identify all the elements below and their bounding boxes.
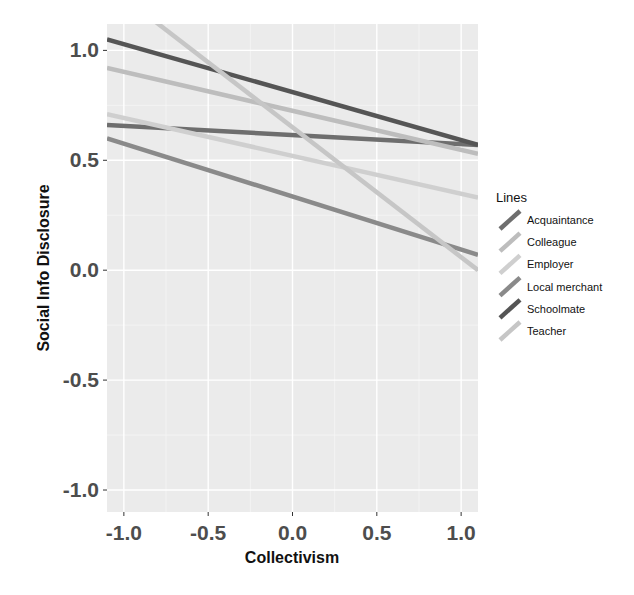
legend-item: Acquaintance <box>500 211 594 229</box>
y-tick-label: 0.0 <box>70 258 99 281</box>
x-tick-label: 1.0 <box>447 521 476 544</box>
legend-label: Local merchant <box>527 281 602 293</box>
legend: Lines AcquaintanceColleagueEmployerLocal… <box>496 190 602 340</box>
y-tick-label: -1.0 <box>63 478 99 501</box>
legend-label: Schoolmate <box>527 303 585 315</box>
legend-key-icon <box>500 322 520 340</box>
chart: 1.00.50.0-0.5-1.0 -1.0-0.50.00.51.0 Coll… <box>0 0 634 595</box>
legend-key-icon <box>500 300 520 318</box>
y-tick-label: 0.5 <box>70 148 100 171</box>
x-axis: -1.0-0.50.00.51.0 <box>106 512 476 544</box>
x-tick-label: -1.0 <box>106 521 142 544</box>
y-tick-label: 1.0 <box>70 38 99 61</box>
legend-key-icon <box>500 211 520 229</box>
legend-title: Lines <box>496 190 528 205</box>
legend-item: Colleague <box>500 233 577 251</box>
legend-label: Teacher <box>527 325 566 337</box>
legend-label: Acquaintance <box>527 214 594 226</box>
x-axis-title: Collectivism <box>245 549 339 566</box>
legend-item: Local merchant <box>500 278 602 296</box>
x-tick-label: 0.5 <box>362 521 392 544</box>
y-tick-label: -0.5 <box>63 368 100 391</box>
legend-item: Employer <box>500 255 574 273</box>
legend-key-icon <box>500 278 520 296</box>
legend-item: Schoolmate <box>500 300 585 318</box>
legend-key-icon <box>500 255 520 273</box>
y-axis-title: Social Info Disclosure <box>35 184 52 351</box>
legend-label: Employer <box>527 258 574 270</box>
legend-label: Colleague <box>527 236 577 248</box>
y-axis: 1.00.50.0-0.5-1.0 <box>63 38 107 501</box>
x-tick-label: -0.5 <box>190 521 227 544</box>
legend-key-icon <box>500 233 520 251</box>
x-tick-label: 0.0 <box>278 521 307 544</box>
legend-item: Teacher <box>500 322 566 340</box>
